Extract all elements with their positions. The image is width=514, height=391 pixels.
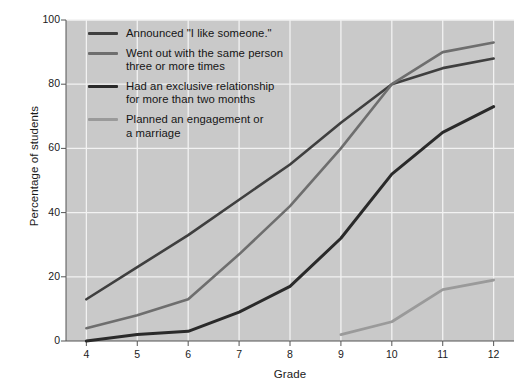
- x-tick-label: 11: [428, 348, 458, 360]
- legend-line-icon: [88, 47, 118, 60]
- legend-item[interactable]: Announced "I like someone.": [88, 27, 318, 41]
- chart-root: 020406080100 456789101112 Percentage of …: [0, 0, 514, 391]
- x-tick-label: 10: [377, 348, 407, 360]
- legend-label: Announced "I like someone.": [126, 27, 272, 41]
- chart-legend: Announced "I like someone."Went out with…: [88, 27, 318, 146]
- y-tick-label: 0: [28, 334, 60, 346]
- legend-line-icon: [88, 80, 118, 93]
- legend-label: Had an exclusive relationship for more t…: [126, 80, 274, 107]
- x-tick-label: 12: [479, 348, 509, 360]
- x-tick-label: 9: [326, 348, 356, 360]
- x-tick-label: 8: [275, 348, 305, 360]
- x-tick-label: 5: [122, 348, 152, 360]
- legend-item[interactable]: Planned an engagement or a marriage: [88, 113, 318, 140]
- legend-line-icon: [88, 27, 118, 40]
- x-tick-label: 6: [173, 348, 203, 360]
- legend-item[interactable]: Had an exclusive relationship for more t…: [88, 80, 318, 107]
- x-axis-title: Grade: [66, 368, 514, 380]
- y-tick-label: 100: [28, 13, 60, 25]
- x-tick-label: 4: [71, 348, 101, 360]
- legend-item[interactable]: Went out with the same person three or m…: [88, 47, 318, 74]
- legend-label: Planned an engagement or a marriage: [126, 113, 264, 140]
- x-axis-tick-labels: 456789101112: [0, 348, 514, 368]
- x-tick-label: 7: [224, 348, 254, 360]
- y-axis-title: Percentage of students: [28, 46, 40, 286]
- legend-line-icon: [88, 113, 118, 126]
- legend-label: Went out with the same person three or m…: [126, 47, 283, 74]
- series-line-3: [341, 280, 494, 335]
